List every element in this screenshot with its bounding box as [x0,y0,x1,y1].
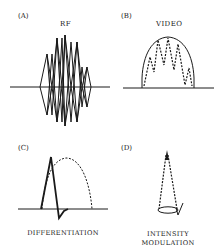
panel-a-title: RF [60,20,71,28]
cone-right-edge [168,155,177,209]
panel-b-video: (B) VIDEO [121,12,214,88]
cone-left-edge [159,155,166,209]
panel-d-caption-line1: INTENSITY [147,230,189,238]
panel-b-title: VIDEO [155,20,182,28]
spot-ellipse [158,207,178,213]
panel-c-label: (C) [18,144,29,152]
panel-a-label: (A) [18,12,29,20]
panel-a-rf: (A) RF [10,12,110,126]
signal-processing-diagram: (A) RF (B) VIDEO (C) DIFFERENTIATION (D)… [0,0,223,249]
panel-d-caption-line2: MODULATION [142,239,195,247]
panel-c-differentiation: (C) DIFFERENTIATION [18,144,108,237]
panel-b-label: (B) [121,12,132,20]
panel-d-intensity-modulation: (D) INTENSITY MODULATION [121,144,194,247]
panel-d-label: (D) [121,144,132,152]
panel-c-caption: DIFFERENTIATION [27,229,98,237]
video-detected-signal [144,38,192,86]
